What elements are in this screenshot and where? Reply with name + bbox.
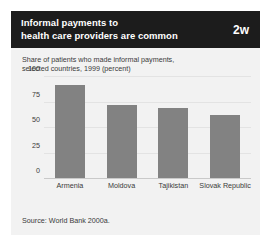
bar-slot (199, 76, 251, 178)
bar-slot (44, 76, 96, 178)
chart-figure: Informal payments to health care provide… (0, 0, 271, 246)
x-axis-labels: ArmeniaMoldovaTajikistanSlovak Republic (44, 181, 251, 190)
chart-subtitle: Share of patients who made informal paym… (22, 55, 252, 73)
y-axis-tick-label: 50 (32, 115, 40, 124)
y-axis-tick-label: 25 (32, 140, 40, 149)
plot-area: 0255075100 (44, 77, 251, 179)
bar-slovak-republic (210, 115, 240, 178)
bar-tajikistan (158, 108, 188, 178)
bar-armenia (55, 85, 85, 178)
chart-header-banner: Informal payments to health care provide… (11, 11, 260, 48)
chart-title: Informal payments to health care provide… (21, 17, 233, 42)
chart-subtitle-line-2: selected countries, 1999 (percent) (22, 64, 252, 73)
y-axis-tick-label: 100 (28, 64, 40, 73)
chart-title-line-2: health care providers are common (21, 30, 233, 43)
chapter-badge: 2w (233, 23, 252, 37)
y-axis-tick-label: 75 (32, 89, 40, 98)
y-axis-tick-label: 0 (36, 166, 40, 175)
chart-subtitle-line-1: Share of patients who made informal paym… (22, 55, 252, 64)
x-axis-label: Moldova (96, 181, 148, 190)
x-axis-label: Armenia (44, 181, 96, 190)
x-axis-label: Slovak Republic (199, 181, 251, 190)
chart-card: Share of patients who made informal paym… (11, 48, 260, 235)
bar-moldova (107, 105, 137, 178)
x-axis-label: Tajikistan (148, 181, 200, 190)
source-note: Source: World Bank 2000a. (22, 216, 110, 225)
bar-series (44, 76, 251, 178)
bar-slot (96, 76, 148, 178)
chart-title-line-1: Informal payments to (21, 17, 233, 30)
bar-slot (148, 76, 200, 178)
axis-baseline (44, 178, 251, 179)
